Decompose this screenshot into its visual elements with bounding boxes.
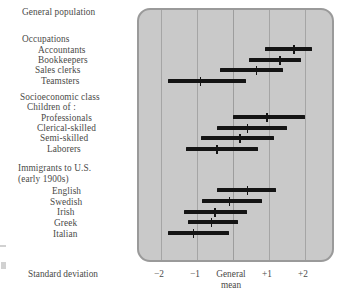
chart-panel [137, 8, 334, 262]
row-label-irish: Irish [57, 207, 75, 217]
mean-marker [256, 66, 258, 75]
gridline-minus-2 [161, 10, 162, 260]
range-bar [202, 199, 261, 203]
mean-marker [200, 77, 202, 86]
range-bar [188, 220, 238, 224]
row-label-clerical-skilled: Clerical-skilled [37, 123, 96, 133]
group-sublabel-immigrants-era: (early 1900s) [18, 174, 69, 184]
range-bar [249, 58, 301, 62]
x-tick-label-zero-mean: mean [201, 280, 261, 290]
mean-marker [266, 113, 268, 122]
row-label-bookkeepers: Bookkeepers [38, 55, 88, 65]
range-bar [184, 210, 247, 214]
row-label-greek: Greek [54, 218, 77, 228]
range-bar [233, 115, 305, 119]
mean-marker [279, 56, 281, 65]
group-sublabel-children-of: Children of : [27, 102, 76, 112]
row-label-professionals: Professionals [41, 113, 92, 123]
group-label-socioeconomic-class: Socioeconomic class [20, 92, 100, 102]
row-label-accountants: Accountants [38, 45, 86, 55]
row-label-italian: Italian [53, 229, 77, 239]
range-bar [168, 79, 245, 83]
mean-marker [193, 229, 195, 238]
x-axis-title: Standard deviation [28, 269, 98, 279]
range-bar [168, 231, 229, 235]
row-label-laborers: Laborers [47, 144, 81, 154]
chart-plot-area [139, 10, 332, 260]
mean-marker [214, 208, 216, 217]
group-label-general-population: General population [22, 7, 95, 17]
page-edge-artifact-top [0, 245, 6, 247]
row-label-sales-clerks: Sales clerks [35, 65, 80, 75]
mean-marker [229, 197, 231, 206]
x-tick-label-plus-2: +2 [273, 269, 333, 279]
range-bar [265, 47, 312, 51]
mean-marker [211, 218, 213, 227]
row-label-english: English [52, 186, 81, 196]
mean-marker [216, 145, 218, 154]
range-bar [220, 68, 283, 72]
mean-marker [293, 45, 295, 54]
range-bar [217, 126, 287, 130]
mean-marker [239, 134, 241, 143]
row-label-semi-skilled: Semi-skilled [40, 133, 88, 143]
range-bar [201, 136, 275, 140]
group-label-immigrants: Immigrants to U.S. [18, 163, 91, 173]
row-label-teamsters: Teamsters [41, 76, 79, 86]
x-axis: Standard deviation −2 −1 General mean +1… [0, 262, 348, 291]
row-label-column: General population Occupations Accountan… [0, 0, 137, 262]
range-bar [186, 147, 258, 151]
row-label-swedish: Swedish [50, 197, 82, 207]
mean-marker [247, 186, 249, 195]
mean-marker [247, 124, 249, 133]
group-label-occupations: Occupations [22, 34, 70, 44]
